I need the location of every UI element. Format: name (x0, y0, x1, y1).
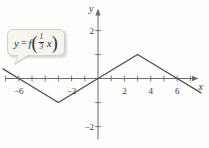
x-axis-label: x (198, 81, 204, 92)
fraction-denominator: 3 (39, 42, 45, 52)
y-axis-label: y (88, 3, 94, 14)
x-tick-label: 4 (149, 86, 154, 96)
equation-close-paren: ) (52, 33, 58, 51)
plot-canvas: −6−22462−2xy (0, 0, 209, 148)
x-tick-label: 6 (175, 86, 180, 96)
x-tick-label: 2 (122, 86, 127, 96)
y-tick-label: −2 (84, 122, 94, 132)
x-tick-label: −6 (14, 86, 24, 96)
equation-y: y (14, 37, 19, 49)
equation-equals: = (21, 37, 27, 48)
y-axis-arrow-icon (95, 9, 100, 16)
equation-open-paren: ( (32, 33, 38, 51)
fraction-numerator: 1 (40, 33, 44, 42)
function-graph-figure: −6−22462−2xy y = f ( 1 3 x ) (0, 0, 209, 148)
equation-callout: y = f ( 1 3 x ) (7, 29, 65, 56)
equation-fraction: 1 3 (39, 33, 45, 51)
y-tick-label: 2 (90, 26, 95, 36)
equation: y = f ( 1 3 x ) (14, 33, 58, 51)
x-axis-arrow-icon (192, 76, 199, 81)
